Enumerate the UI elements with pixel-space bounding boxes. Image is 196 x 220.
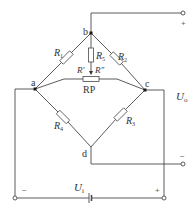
r3-label: R3 (125, 115, 135, 127)
wire-a-to-input-minus (15, 89, 35, 196)
resistor-r5 (89, 48, 94, 62)
wire-d-to-output-minus (91, 147, 181, 164)
input-minus-sign: − (22, 186, 27, 195)
rp-right-part-label: R″ (94, 65, 104, 75)
input-minus-terminal[interactable] (13, 196, 17, 200)
potentiometer-rp (83, 77, 99, 82)
wire-b-to-output-plus (91, 13, 181, 33)
output-plus-sign: + (181, 19, 186, 28)
wire-b-r1 (71, 33, 91, 53)
output-voltage-label: Uo (176, 90, 188, 104)
wire-a-r4 (35, 89, 58, 112)
input-plus-sign: + (155, 186, 160, 195)
bridge-circuit-diagram: + R1 R2 R5 R′ R″ RP R4 R3 − Uo (0, 0, 196, 220)
wire-a-rp (35, 79, 83, 89)
wire-r3-d (91, 119, 116, 147)
wire-c-to-input-plus (145, 90, 164, 196)
wire-rp-c (99, 79, 145, 90)
node-a-label: a (31, 77, 36, 88)
output-minus-terminal[interactable] (181, 162, 185, 166)
r1-label: R1 (53, 47, 63, 59)
node-b-label: b (83, 26, 88, 37)
node-b-dot (90, 32, 93, 35)
node-c-label: c (145, 78, 150, 89)
r5-label: R5 (95, 50, 105, 62)
wire-c-r3 (125, 90, 145, 110)
wiper-arrow-icon (89, 71, 93, 75)
rp-left-part-label: R′ (76, 65, 85, 75)
output-minus-sign: − (180, 152, 185, 161)
rp-label: RP (83, 84, 96, 95)
input-plus-terminal[interactable] (162, 196, 166, 200)
wire-r1-a (35, 62, 62, 89)
wire-r4-d (68, 122, 91, 147)
input-voltage-label: Ui (74, 181, 84, 195)
wire-r2-c (121, 63, 145, 90)
r2-label: R2 (117, 51, 127, 63)
r4-label: R4 (53, 120, 63, 132)
output-plus-terminal[interactable] (181, 11, 185, 15)
node-d-label: d (82, 148, 87, 159)
